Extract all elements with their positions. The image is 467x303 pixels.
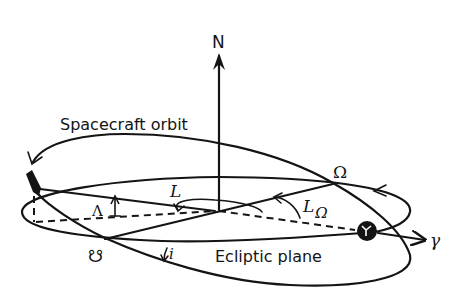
longitude-of-node-arc (274, 193, 300, 218)
orbit-geometry-diagram: N Spacecraft orbit Ecliptic plane γ Ω ☋ (0, 0, 467, 303)
descending-node-label: ☋ (88, 246, 103, 266)
ascending-node-label: Ω (333, 162, 347, 182)
spacecraft-icon (26, 170, 41, 196)
longitude-label: L (169, 181, 181, 201)
vernal-equinox-label: γ (430, 230, 441, 250)
latitude-label: Λ (91, 202, 103, 220)
equinox-direction-dashed (219, 211, 355, 230)
spacecraft-orbit-label: Spacecraft orbit (60, 115, 188, 134)
longitude-of-node-label: LΩ (302, 196, 328, 222)
spacecraft-projection-line (36, 211, 215, 222)
north-label: N (212, 32, 225, 52)
central-body-icon (357, 221, 377, 241)
north-axis (213, 53, 225, 210)
inclination-label: i (169, 245, 174, 263)
ecliptic-plane-path (22, 177, 410, 241)
ecliptic-plane-label: Ecliptic plane (215, 247, 322, 266)
